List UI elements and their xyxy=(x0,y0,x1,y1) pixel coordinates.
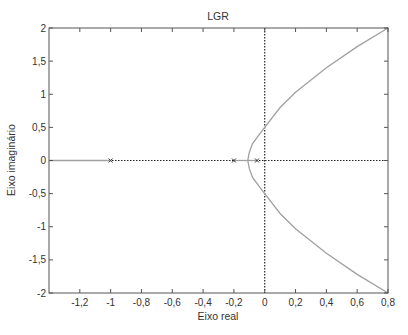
x-tick-label: 0,6 xyxy=(350,297,364,308)
locus-upper-branch xyxy=(248,28,388,161)
y-tick-label: 1,5 xyxy=(32,56,46,67)
y-axis-label: Eixo imaginário xyxy=(5,124,17,196)
x-tick-label: 0,8 xyxy=(381,297,395,308)
x-tick-label: -0,6 xyxy=(164,297,182,308)
x-tick-label: -0,2 xyxy=(225,297,243,308)
chart-title: LGR xyxy=(207,10,229,22)
root-locus-chart: LGR -1,2-1-0,8-0,6-0,4-0,200,20,40,60,8-… xyxy=(0,0,408,335)
x-tick-label: 0 xyxy=(262,297,268,308)
y-tick-label: 2 xyxy=(40,23,46,34)
y-tick-label: -1 xyxy=(37,221,46,232)
x-tick-label: -1 xyxy=(106,297,115,308)
x-tick-label: 0,2 xyxy=(289,297,303,308)
y-tick-label: -1,5 xyxy=(29,254,47,265)
x-tick-label: -0,8 xyxy=(133,297,151,308)
x-axis-label: Eixo real xyxy=(198,310,239,322)
y-tick-label: 0 xyxy=(40,155,46,166)
x-tick-label: -1,2 xyxy=(71,297,89,308)
y-tick-label: 1 xyxy=(40,89,46,100)
y-tick-label: 0,5 xyxy=(32,122,46,133)
x-tick-label: 0,4 xyxy=(319,297,333,308)
x-tick-label: -0,4 xyxy=(194,297,212,308)
plot-area: -1,2-1-0,8-0,6-0,4-0,200,20,40,60,8-2-1,… xyxy=(29,23,396,309)
y-tick-label: -2 xyxy=(37,288,46,299)
y-tick-label: -0,5 xyxy=(29,188,47,199)
locus-lower-branch xyxy=(248,161,388,294)
